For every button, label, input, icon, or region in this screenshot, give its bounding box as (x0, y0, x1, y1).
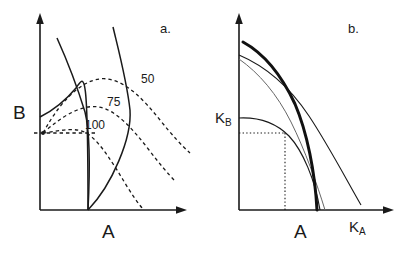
panel-b-plot (205, 0, 410, 255)
panel-a: B A a. 50 75 100 (0, 0, 205, 255)
panel-b-tag: b. (348, 22, 359, 35)
thin-outer-curve (239, 55, 361, 205)
panel-a-origin-marker (41, 131, 45, 135)
panel-a-x-axis (40, 206, 187, 214)
panel-a-x-axis-label: A (102, 222, 115, 241)
panel-b-y-axis-label-sub: B (225, 117, 232, 128)
panel-b-y-axis-label-main: K (215, 109, 225, 126)
yield-dashed-100 (43, 130, 144, 210)
yield-dashed-75 (43, 107, 176, 182)
contour-label-75: 75 (107, 96, 120, 108)
panel-b-x-axis-mark: KA (349, 219, 366, 234)
thick-frontier (243, 42, 317, 210)
panel-b-y-axis-label: KB (215, 110, 232, 125)
panel-b-x-axis-mark-sub: A (359, 226, 366, 237)
figure-container: B A a. 50 75 100 (0, 0, 410, 255)
panel-b-x-axis-label: A (294, 222, 307, 241)
panel-a-y-axis (36, 13, 44, 210)
panel-b: KB A b. KA (205, 0, 410, 255)
contour-label-100: 100 (85, 119, 105, 131)
panel-b-dotted-reference (239, 133, 285, 210)
panel-a-y-axis-label: B (13, 103, 26, 122)
panel-a-tag: a. (160, 22, 171, 35)
panel-b-x-axis-mark-main: K (349, 218, 359, 235)
thin-plateau-curve (239, 118, 320, 210)
contour-label-50: 50 (141, 73, 154, 85)
